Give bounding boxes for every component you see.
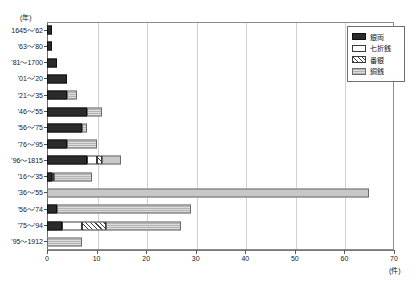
x-axis-unit-label: (件) — [389, 265, 401, 275]
stacked-bar — [47, 42, 52, 51]
x-axis-tick — [394, 250, 395, 254]
y-axis-tick-label: '46～'55 — [18, 108, 43, 115]
y-axis-tick-label: '95～1912 — [11, 238, 43, 245]
legend-swatch-icon — [352, 45, 366, 52]
bar-segment-3 — [102, 156, 122, 165]
bar-row: '63～'80 — [47, 38, 394, 54]
bar-row: '76～'95 — [47, 136, 394, 152]
bar-segment-3 — [82, 123, 87, 132]
x-axis-tick-label: 30 — [192, 255, 200, 262]
bar-segment-1 — [87, 156, 97, 165]
bar-segment-0 — [47, 123, 82, 132]
bar-segment-3 — [67, 140, 97, 149]
y-axis-tick-label: 1645～'62 — [11, 27, 43, 34]
x-axis-tick-label: 10 — [93, 255, 101, 262]
bar-row: '56～'74 — [47, 201, 394, 217]
bar-row: '95～1912 — [47, 234, 394, 250]
stacked-bar — [47, 58, 57, 67]
x-axis-tick-label: 40 — [241, 255, 249, 262]
legend-swatch-icon — [352, 56, 366, 63]
y-axis-tick-label: '96～1815 — [11, 157, 43, 164]
stacked-bar — [47, 91, 77, 100]
legend-item: 銀両 — [352, 32, 400, 42]
x-axis-tick — [196, 250, 197, 254]
bar-segment-0 — [47, 156, 87, 165]
y-axis-tick-label: '36～'55 — [18, 189, 43, 196]
bar-row: 1645～'62 — [47, 22, 394, 38]
bar-rows-container: 1645～'62'63～'80'81～1700'01～'20'21～'35'46… — [47, 22, 394, 250]
bar-segment-3 — [57, 205, 191, 214]
legend-label: 番銀 — [370, 55, 384, 65]
legend-swatch-icon — [352, 33, 366, 40]
bar-row: '21～'35 — [47, 87, 394, 103]
y-axis-tick-label: '75～'94 — [18, 222, 43, 229]
bar-segment-3 — [67, 91, 77, 100]
legend-item: 番銀 — [352, 55, 400, 65]
bar-segment-0 — [47, 58, 57, 67]
stacked-bar — [47, 205, 191, 214]
legend: 銀両七折銭番銀銅銭 — [347, 26, 405, 82]
x-axis-tick-label: 50 — [291, 255, 299, 262]
bar-chart: (年) 1645～'62'63～'80'81～1700'01～'20'21～'3… — [0, 0, 419, 282]
bar-segment-3 — [47, 237, 82, 246]
stacked-bar — [47, 221, 181, 230]
bar-segment-0 — [47, 26, 52, 35]
x-axis-tick-label: 70 — [390, 255, 398, 262]
stacked-bar — [47, 107, 102, 116]
legend-label: 七折銭 — [370, 43, 391, 53]
x-axis-tick-label: 20 — [142, 255, 150, 262]
y-axis-tick-label: '01～'20 — [18, 75, 43, 82]
bar-segment-3 — [106, 221, 180, 230]
bar-row: '16～'35 — [47, 169, 394, 185]
y-axis-tick-label: '63～'80 — [18, 43, 43, 50]
x-axis-tick — [344, 250, 345, 254]
stacked-bar — [47, 140, 97, 149]
y-axis-tick-label: '56～'75 — [18, 124, 43, 131]
x-axis-tick — [146, 250, 147, 254]
bar-segment-0 — [47, 221, 62, 230]
bar-row: '01～'20 — [47, 71, 394, 87]
y-axis-tick-label: '16～'35 — [18, 173, 43, 180]
y-axis-tick-label: '76～'95 — [18, 141, 43, 148]
bar-row: '75～'94 — [47, 217, 394, 233]
bar-segment-0 — [47, 140, 67, 149]
bar-row: '81～1700 — [47, 55, 394, 71]
stacked-bar — [47, 188, 369, 197]
legend-item: 七折銭 — [352, 43, 400, 53]
bar-segment-1 — [62, 221, 82, 230]
legend-swatch-icon — [352, 68, 366, 75]
x-axis-tick-label: 60 — [341, 255, 349, 262]
x-axis-tick — [47, 250, 48, 254]
legend-item: 銅銭 — [352, 66, 400, 76]
x-axis-tick — [295, 250, 296, 254]
bar-segment-0 — [47, 74, 67, 83]
x-axis-line — [47, 250, 394, 251]
bar-segment-0 — [47, 91, 67, 100]
bar-row: '36～'55 — [47, 185, 394, 201]
bar-segment-3 — [54, 172, 91, 181]
y-axis-tick-label: '81～1700 — [11, 59, 43, 66]
bar-segment-3 — [47, 188, 369, 197]
stacked-bar — [47, 156, 121, 165]
x-axis-tick — [245, 250, 246, 254]
stacked-bar — [47, 123, 87, 132]
bar-segment-0 — [47, 205, 57, 214]
bar-segment-0 — [47, 107, 87, 116]
bar-row: '56～'75 — [47, 120, 394, 136]
stacked-bar — [47, 26, 52, 35]
bar-row: '96～1815 — [47, 152, 394, 168]
legend-label: 銅銭 — [370, 66, 384, 76]
stacked-bar — [47, 74, 67, 83]
y-axis-unit-label: (年) — [20, 12, 32, 22]
x-axis-tick — [97, 250, 98, 254]
legend-label: 銀両 — [370, 32, 384, 42]
y-axis-tick-label: '56～'74 — [18, 206, 43, 213]
y-axis-tick-label: '21～'35 — [18, 92, 43, 99]
bar-segment-2 — [82, 221, 107, 230]
x-axis-tick-label: 0 — [45, 255, 49, 262]
bar-segment-0 — [47, 42, 52, 51]
bar-segment-3 — [87, 107, 102, 116]
bar-row: '46～'55 — [47, 103, 394, 119]
stacked-bar — [47, 237, 82, 246]
stacked-bar — [47, 172, 92, 181]
